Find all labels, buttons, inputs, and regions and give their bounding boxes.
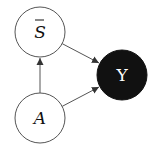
node-s-bar-label: S [34,22,46,42]
causal-diagram: S A Y [0,0,156,151]
edge-a-to-y [62,87,99,106]
edge-s-bar-to-y [62,44,99,63]
node-y: Y [97,50,147,100]
node-a-label: A [32,108,46,128]
node-y-label: Y [115,65,128,85]
node-a: A [15,93,65,143]
node-s-bar: S [15,7,65,57]
